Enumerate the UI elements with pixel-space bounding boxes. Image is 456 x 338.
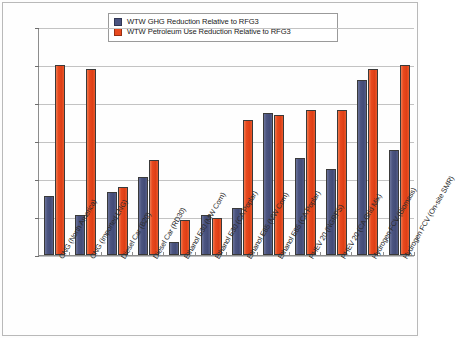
bar[interactable] bbox=[44, 196, 54, 255]
legend-item-ghg: WTW GHG Reduction Relative to RFG3 bbox=[114, 18, 332, 27]
x-axis-tick bbox=[257, 252, 258, 256]
legend-label-ghg: WTW GHG Reduction Relative to RFG3 bbox=[127, 18, 259, 27]
x-axis-tick bbox=[320, 252, 321, 256]
bar[interactable] bbox=[86, 69, 96, 255]
x-axis-tick bbox=[226, 252, 227, 256]
bar[interactable] bbox=[55, 65, 65, 255]
bar[interactable] bbox=[274, 115, 284, 255]
x-axis-tick bbox=[383, 252, 384, 256]
bar[interactable] bbox=[389, 150, 399, 255]
bar[interactable] bbox=[400, 65, 410, 255]
x-axis-tick bbox=[101, 252, 102, 256]
x-axis-tick bbox=[289, 252, 290, 256]
x-axis-labels: CNG (North America)CNG (Imported LNG)Die… bbox=[38, 256, 414, 338]
legend-swatch-ghg bbox=[114, 18, 122, 26]
x-axis-tick bbox=[163, 252, 164, 256]
bar[interactable] bbox=[149, 160, 159, 255]
bar[interactable] bbox=[306, 110, 316, 255]
bar[interactable] bbox=[243, 120, 253, 255]
x-axis-tick bbox=[132, 252, 133, 256]
x-axis-tick bbox=[195, 252, 196, 256]
x-axis-tick bbox=[69, 252, 70, 256]
bar-group bbox=[39, 28, 70, 255]
x-axis-tick bbox=[414, 252, 415, 256]
bar[interactable] bbox=[337, 110, 347, 255]
bar[interactable] bbox=[169, 242, 179, 255]
x-axis-tick bbox=[351, 252, 352, 256]
bar[interactable] bbox=[368, 69, 378, 255]
